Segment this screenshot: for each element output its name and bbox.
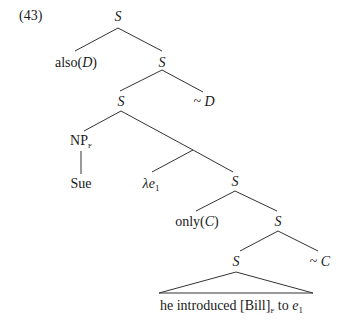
branch — [193, 150, 233, 172]
tree-branches — [0, 0, 346, 328]
triangle — [159, 272, 313, 293]
branch — [121, 111, 193, 150]
node-root-s: S — [115, 9, 122, 25]
node-tilde-c: ~ C — [310, 254, 330, 270]
node-s2: S — [159, 55, 166, 71]
node-lambda-e1: λe1 — [143, 176, 160, 192]
node-tilde-d: ~ D — [193, 94, 214, 110]
branch — [278, 231, 318, 251]
node-np-f: NPF — [70, 133, 92, 149]
branch — [152, 150, 193, 172]
branch — [240, 231, 278, 251]
branch — [84, 111, 121, 131]
example-number: (43) — [19, 8, 42, 24]
branch — [118, 28, 162, 51]
branch — [162, 70, 203, 92]
leaf-sentence: he introduced [Bill]F to e1 — [160, 298, 303, 314]
branch — [235, 191, 277, 211]
node-s5: S — [275, 214, 282, 230]
node-only-c: only(C) — [175, 214, 219, 230]
node-also-d: also(D) — [55, 55, 97, 71]
node-s4: S — [232, 174, 239, 190]
node-s3: S — [118, 94, 125, 110]
branch — [75, 28, 118, 51]
node-sue: Sue — [71, 176, 92, 192]
branch — [196, 191, 235, 211]
branch — [120, 70, 162, 91]
node-s6: S — [233, 254, 240, 270]
